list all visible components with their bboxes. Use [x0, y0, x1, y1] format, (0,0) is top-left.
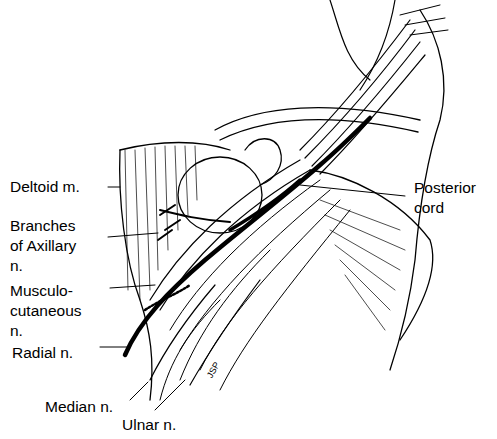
label-deltoid: Deltoid m. [10, 177, 80, 197]
label-ulnar: Ulnar n. [122, 415, 176, 435]
anatomy-diagram: Deltoid m. Branches of Axillary n. Muscu… [0, 0, 497, 439]
label-axillary-branches: Branches of Axillary n. [10, 216, 76, 276]
label-median: Median n. [45, 397, 113, 417]
label-posterior-cord: Posterior cord [414, 178, 476, 218]
label-radial: Radial n. [12, 343, 73, 363]
label-musculocutaneous: Musculo- cutaneous n. [10, 281, 82, 341]
